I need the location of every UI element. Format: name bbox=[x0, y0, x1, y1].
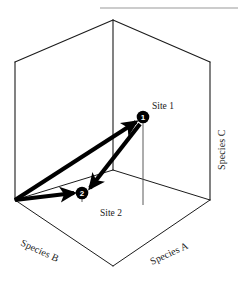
species-space-diagram: 1 2 Site 1 Site 2 Species B Species A Sp… bbox=[0, 0, 238, 283]
axis-label-species-b: Species B bbox=[19, 237, 61, 264]
site-1-label: Site 1 bbox=[152, 101, 174, 111]
vector-origin-to-site-1 bbox=[15, 122, 136, 200]
point-number-site-2: 2 bbox=[80, 189, 85, 198]
site-2-label: Site 2 bbox=[100, 208, 122, 218]
axis-label-species-c: Species C bbox=[216, 129, 227, 170]
point-number-site-1: 1 bbox=[141, 113, 146, 122]
axis-label-species-a: Species A bbox=[148, 239, 190, 266]
data-point-site-2[interactable]: 2 bbox=[76, 187, 89, 200]
data-point-site-1[interactable]: 1 bbox=[137, 111, 150, 124]
figure-container: 1 2 Site 1 Site 2 Species B Species A Sp… bbox=[0, 0, 238, 283]
box-left-back-wall bbox=[15, 20, 113, 200]
vector-arrows bbox=[15, 122, 140, 200]
